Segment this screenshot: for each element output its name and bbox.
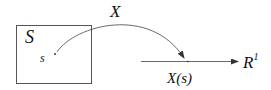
point-label: s xyxy=(40,52,45,64)
codomain-superscript: 1 xyxy=(253,51,258,62)
image-point-dot xyxy=(187,61,189,63)
mapping-arrow xyxy=(57,25,184,58)
set-label: S xyxy=(25,28,34,46)
codomain-label: R1 xyxy=(243,52,258,71)
diagram-canvas xyxy=(0,0,271,90)
point-dot xyxy=(54,53,56,55)
image-label: X(s) xyxy=(167,71,192,86)
codomain-base: R xyxy=(243,53,253,72)
map-label: X xyxy=(110,3,120,20)
